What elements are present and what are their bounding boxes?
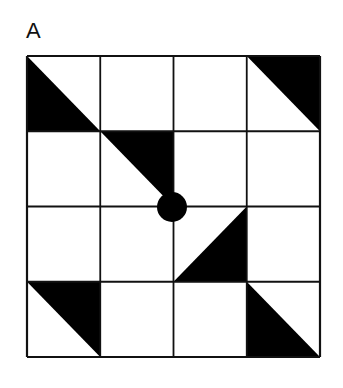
grid-diagram xyxy=(0,0,343,388)
triangle-upper-right xyxy=(247,56,320,131)
triangle-upper-right xyxy=(27,282,100,357)
triangle-upper-right xyxy=(100,131,173,206)
triangle-lower-left xyxy=(247,282,320,357)
center-dot xyxy=(157,192,187,222)
triangle-lower-right xyxy=(174,207,247,282)
triangle-lower-left xyxy=(27,56,100,131)
